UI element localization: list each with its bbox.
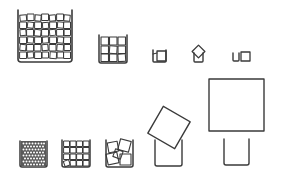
small-cup-one-cube <box>153 50 166 62</box>
cube-packing-diagram <box>0 0 281 182</box>
large-container-many-cubes <box>18 10 72 62</box>
container-medium-cubes <box>62 140 90 167</box>
cup-below-huge-cube <box>209 79 264 165</box>
medium-container-9-cubes <box>99 35 127 63</box>
small-cup-cube-beside <box>233 52 250 61</box>
cup-with-tilted-large-cube <box>148 106 190 166</box>
diagram-canvas: Line drawing of containers filled with c… <box>0 0 281 182</box>
small-cup-tilted-cube <box>192 45 205 62</box>
container-few-cubes <box>106 139 133 167</box>
container-fine-cubes <box>20 141 47 167</box>
